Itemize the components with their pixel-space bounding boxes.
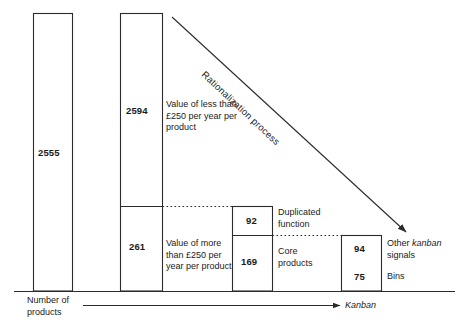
annotation-duplicated-function: Duplicated function: [278, 207, 348, 230]
annotation-bins: Bins: [387, 271, 437, 283]
bar-value-92: 92: [246, 215, 257, 226]
bar-value-2555: 2555: [38, 147, 60, 158]
x-axis-label: Kanban: [345, 300, 376, 310]
annotation-other-kanban-prefix: Other: [387, 238, 412, 248]
annotation-other-kanban-suffix: signals: [387, 250, 415, 260]
annotation-other-kanban-italic: kanban: [412, 238, 442, 248]
annotation-value-more-than-250: Value of more than £250 per year per pro…: [166, 238, 238, 273]
rationalization-process-diagram: 2555 2594 261 92 169 94 75 Value of less…: [0, 0, 468, 328]
annotation-other-kanban-signals: Other kanban signals: [387, 238, 465, 261]
bar-value-261: 261: [129, 241, 145, 252]
bar-value-169: 169: [241, 256, 257, 267]
bar-value-75: 75: [354, 271, 365, 282]
bar-value-94: 94: [354, 243, 365, 254]
annotation-core-products: Core products: [278, 246, 338, 269]
y-axis-label: Number of products: [27, 295, 97, 318]
bar-value-2594: 2594: [126, 105, 148, 116]
